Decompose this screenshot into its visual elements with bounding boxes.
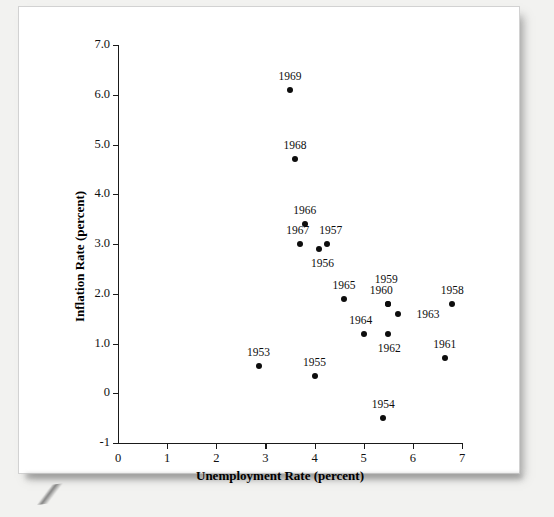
data-point-label: 1963	[413, 308, 443, 320]
data-point	[449, 301, 455, 307]
data-point-label: 1962	[374, 342, 404, 354]
y-tick-mark	[113, 344, 118, 345]
data-point-label: 1965	[329, 279, 359, 291]
y-tick-mark	[113, 145, 118, 146]
x-tick-mark	[462, 444, 463, 449]
x-tick-mark	[364, 444, 365, 449]
data-point	[312, 373, 318, 379]
scatter-plot: -101.02.03.04.05.06.07.0 01234567 196919…	[0, 0, 554, 517]
y-tick-mark	[113, 244, 118, 245]
x-tick-label: 3	[251, 451, 279, 466]
y-tick-label: 5.0	[76, 137, 110, 152]
data-point	[292, 156, 298, 162]
x-tick-label: 1	[153, 451, 181, 466]
x-tick-mark	[315, 444, 316, 449]
data-point	[361, 331, 367, 337]
y-tick-label: 7.0	[76, 37, 110, 52]
data-point	[380, 415, 386, 421]
data-point-label: 1958	[437, 284, 467, 296]
data-point	[324, 241, 330, 247]
data-point-label: 1953	[244, 346, 274, 358]
data-point	[287, 87, 293, 93]
data-point	[385, 331, 391, 337]
y-tick-label: 6.0	[76, 87, 110, 102]
x-tick-label: 0	[104, 451, 132, 466]
data-point-label: 1956	[307, 257, 337, 269]
y-tick-mark	[113, 95, 118, 96]
data-point-label: 1955	[300, 356, 330, 368]
y-tick-label: -1	[76, 435, 110, 450]
data-point-label: 1961	[430, 338, 460, 350]
x-axis-title: Unemployment Rate (percent)	[196, 468, 364, 484]
x-tick-mark	[265, 444, 266, 449]
data-point	[297, 241, 303, 247]
data-point	[256, 363, 262, 369]
x-axis-line	[118, 443, 463, 444]
data-point-label: 1967	[283, 224, 313, 236]
data-point-label: 1954	[368, 398, 398, 410]
x-tick-label: 5	[350, 451, 378, 466]
y-tick-mark	[113, 294, 118, 295]
y-tick-label: 0	[76, 385, 110, 400]
x-tick-mark	[413, 444, 414, 449]
data-point	[442, 355, 448, 361]
data-point	[316, 246, 322, 252]
y-tick-mark	[113, 45, 118, 46]
data-point-label: 1964	[346, 314, 376, 326]
data-point-label: 1960	[366, 284, 396, 296]
x-tick-label: 4	[301, 451, 329, 466]
data-point	[341, 296, 347, 302]
y-tick-mark	[113, 194, 118, 195]
data-point-label: 1957	[316, 224, 346, 236]
y-tick-label: 1.0	[76, 336, 110, 351]
data-point	[385, 301, 391, 307]
y-axis-title: Inflation Rate (percent)	[72, 191, 88, 322]
x-tick-label: 6	[399, 451, 427, 466]
y-axis-line	[118, 45, 119, 444]
scanned-page: -101.02.03.04.05.06.07.0 01234567 196919…	[0, 0, 554, 517]
data-point-label: 1969	[275, 70, 305, 82]
y-tick-mark	[113, 443, 118, 444]
x-tick-mark	[167, 444, 168, 449]
x-tick-label: 2	[202, 451, 230, 466]
y-tick-mark	[113, 393, 118, 394]
x-tick-label: 7	[448, 451, 476, 466]
x-tick-mark	[216, 444, 217, 449]
data-point	[395, 311, 401, 317]
data-point-label: 1968	[280, 139, 310, 151]
data-point-label: 1966	[290, 204, 320, 216]
